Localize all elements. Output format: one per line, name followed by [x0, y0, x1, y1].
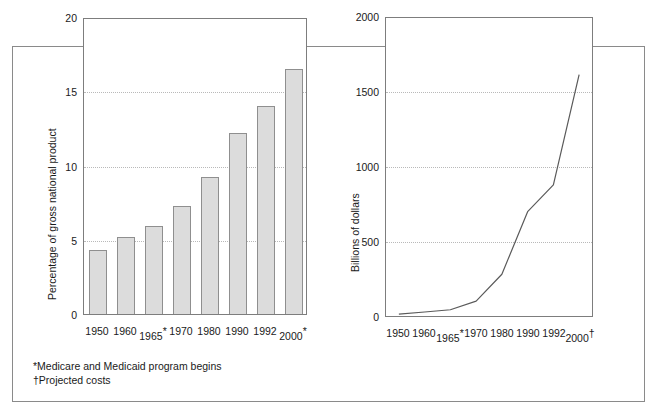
x-tick-label: 1950	[386, 328, 409, 339]
line-chart-series-line	[386, 18, 592, 316]
bar	[117, 237, 134, 314]
bar	[229, 133, 246, 314]
x-tick-label: 2000†	[565, 328, 594, 344]
bar-chart-bars	[84, 19, 306, 314]
x-tick-label: 1980	[490, 328, 513, 339]
line-series-path	[399, 75, 579, 315]
x-tick-label: 1970	[169, 326, 192, 337]
bar	[201, 177, 218, 314]
footnote-asterisk: *Medicare and Medicaid program begins	[33, 360, 222, 374]
y-tick-label: 1500	[347, 87, 379, 98]
x-tick-label: 1960	[412, 328, 435, 339]
bar-chart-y-axis-title: Percentage of gross national product	[47, 128, 58, 300]
x-tick-label: 1965*	[139, 326, 166, 342]
y-tick-label: 10	[47, 161, 77, 172]
bar	[173, 206, 190, 314]
x-tick-footnote-marker: *	[163, 325, 167, 337]
y-tick-label: 2000	[347, 12, 379, 23]
y-tick-label: 0	[47, 310, 77, 321]
y-tick-label: 1000	[347, 162, 379, 173]
bar	[89, 250, 106, 314]
bar	[145, 226, 162, 314]
x-tick-label: 1990	[516, 328, 539, 339]
line-chart-y-axis-title: Billions of dollars	[350, 193, 361, 272]
x-tick-label: 1960	[113, 326, 136, 337]
line-chart-panel: Billions of dollars 0500100015002000 195…	[330, 0, 655, 409]
x-tick-footnote-marker: *	[303, 325, 307, 337]
x-tick-label: 1992	[253, 326, 276, 337]
figure-footnotes: *Medicare and Medicaid program begins †P…	[33, 360, 222, 387]
x-tick-label: 1965*	[436, 328, 463, 344]
x-tick-label: 2000*	[279, 326, 306, 342]
bar	[285, 69, 302, 314]
bar	[257, 106, 274, 314]
x-tick-label: 1992	[542, 328, 565, 339]
figure-root: Percentage of gross national product 051…	[0, 0, 655, 409]
bar-chart-plot-area	[83, 18, 307, 315]
y-tick-label: 5	[47, 236, 77, 247]
bar-chart-panel: Percentage of gross national product 051…	[0, 0, 330, 409]
x-tick-label: 1990	[225, 326, 248, 337]
y-tick-label: 15	[47, 87, 77, 98]
x-tick-footnote-marker: †	[589, 327, 595, 339]
x-tick-label: 1970	[464, 328, 487, 339]
y-tick-label: 0	[347, 312, 379, 323]
x-tick-label: 1980	[197, 326, 220, 337]
y-tick-label: 500	[347, 237, 379, 248]
line-chart-plot-area	[385, 17, 593, 317]
y-tick-label: 20	[47, 13, 77, 24]
x-tick-footnote-marker: *	[460, 327, 464, 339]
x-tick-label: 1950	[85, 326, 108, 337]
footnote-dagger: †Projected costs	[33, 374, 222, 388]
